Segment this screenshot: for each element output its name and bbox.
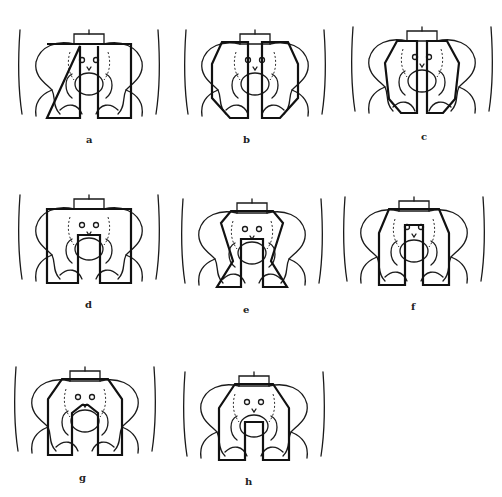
pelvis-field-illustration: [178, 18, 332, 128]
pelvis-field-illustration: [337, 185, 491, 295]
panel-label-e: e: [243, 304, 249, 315]
panel-label-a: a: [86, 134, 92, 145]
panel-label-d: d: [85, 299, 92, 310]
pelvis-diagram-d: [12, 183, 166, 293]
pelvis-diagram-g: [8, 355, 162, 465]
pelvis-diagram-e: [175, 187, 329, 297]
pelvis-field-illustration: [8, 355, 162, 465]
panel-label-b: b: [243, 134, 250, 145]
pelvis-field-illustration: [177, 360, 331, 470]
pelvis-diagram-c: [345, 15, 499, 125]
panel-label-h: h: [245, 476, 252, 487]
pelvis-field-illustration: [12, 18, 166, 128]
panel-label-f: f: [411, 301, 415, 312]
panel-label-g: g: [79, 472, 86, 483]
pelvis-diagram-h: [177, 360, 331, 470]
pelvis-field-illustration: [175, 187, 329, 297]
pelvis-field-illustration: [345, 15, 499, 125]
pelvis-diagram-f: [337, 185, 491, 295]
pelvis-field-illustration: [12, 183, 166, 293]
panel-label-c: c: [421, 131, 427, 142]
pelvis-diagram-b: [178, 18, 332, 128]
pelvis-diagram-a: [12, 18, 166, 128]
